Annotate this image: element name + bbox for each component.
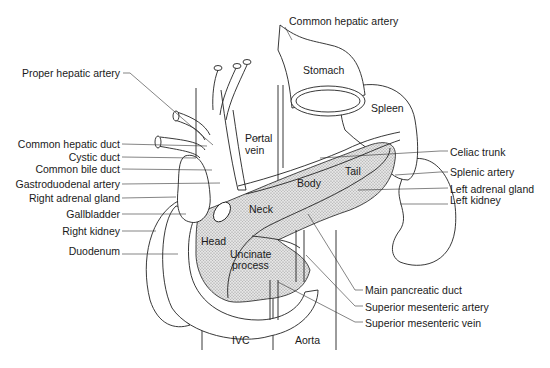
label-left-kidney: Left kidney <box>450 194 501 206</box>
label-uncinate-line2: process <box>232 259 269 271</box>
label-proper-hepatic-artery: Proper hepatic artery <box>22 67 120 79</box>
hepatic-artery-branches <box>155 60 251 159</box>
label-aorta: Aorta <box>295 334 320 346</box>
label-right-adrenal-gland: Right adrenal gland <box>29 192 120 204</box>
label-neck: Neck <box>249 203 273 215</box>
label-body: Body <box>297 177 321 189</box>
stomach-cut-opening <box>291 86 365 116</box>
label-cystic-duct: Cystic duct <box>69 151 120 163</box>
label-ivc: IVC <box>232 334 250 346</box>
label-tail: Tail <box>345 165 361 177</box>
label-spleen: Spleen <box>371 102 404 114</box>
label-head: Head <box>201 235 226 247</box>
label-celiac-trunk: Celiac trunk <box>450 146 505 158</box>
label-stomach: Stomach <box>303 64 344 76</box>
gallbladder <box>178 155 211 222</box>
label-duodenum: Duodenum <box>69 245 120 257</box>
label-common-bile-duct: Common bile duct <box>35 163 120 175</box>
portal-vein <box>221 90 246 190</box>
label-portal-vein-line1: Portal <box>245 132 272 144</box>
label-right-kidney: Right kidney <box>62 225 120 237</box>
label-common-hepatic-duct: Common hepatic duct <box>18 138 120 150</box>
label-main-pancreatic-duct: Main pancreatic duct <box>365 284 462 296</box>
label-gallbladder: Gallbladder <box>66 208 120 220</box>
label-splenic-artery: Splenic artery <box>450 166 514 178</box>
label-superior-mesenteric-vein: Superior mesenteric vein <box>365 317 481 329</box>
label-common-hepatic-artery: Common hepatic artery <box>289 15 398 27</box>
label-gastroduodenal-artery: Gastroduodenal artery <box>16 178 120 190</box>
label-portal-vein-line2: vein <box>245 144 264 156</box>
label-superior-mesenteric-artery: Superior mesenteric artery <box>365 301 489 313</box>
